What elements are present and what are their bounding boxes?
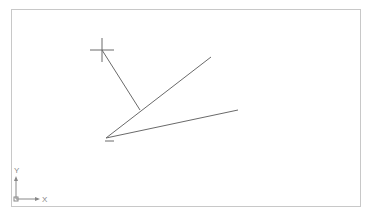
- angle-line-lower[interactable]: [106, 110, 238, 138]
- rubber-band-line: [102, 50, 140, 110]
- angle-line-upper[interactable]: [106, 57, 211, 138]
- ucs-icon: Y X: [14, 166, 48, 204]
- crosshair-icon: [90, 38, 114, 62]
- drawing-canvas[interactable]: Y X: [0, 0, 370, 219]
- ucs-x-label: X: [42, 195, 48, 204]
- ucs-y-label: Y: [14, 166, 20, 175]
